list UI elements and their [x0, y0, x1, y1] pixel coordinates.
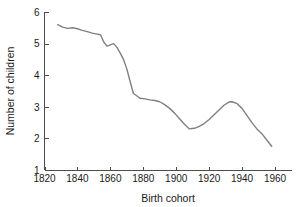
y-axis-title: Number of children — [4, 46, 16, 135]
x-axis-ticks: 18201840186018801900192019401960 — [33, 167, 286, 185]
x-axis-title: Birth cohort — [141, 192, 195, 204]
data-series-line — [58, 25, 272, 147]
x-tick-label: 1960 — [264, 173, 287, 184]
y-tick-label: 6 — [34, 7, 40, 18]
x-tick-label: 1880 — [132, 173, 155, 184]
x-tick-label: 1820 — [33, 173, 56, 184]
y-tick-label: 3 — [34, 102, 40, 113]
chart-canvas: 123456 18201840186018801900192019401960 … — [0, 0, 300, 207]
y-tick-label: 5 — [34, 38, 40, 49]
x-tick-label: 1920 — [198, 173, 221, 184]
x-tick-label: 1900 — [165, 173, 188, 184]
y-axis-ticks: 123456 — [34, 7, 49, 176]
y-tick-label: 4 — [34, 70, 40, 81]
x-tick-label: 1860 — [99, 173, 122, 184]
x-tick-label: 1940 — [231, 173, 254, 184]
x-tick-label: 1840 — [66, 173, 89, 184]
chart-figure: 123456 18201840186018801900192019401960 … — [0, 0, 300, 207]
y-tick-label: 2 — [34, 133, 40, 144]
